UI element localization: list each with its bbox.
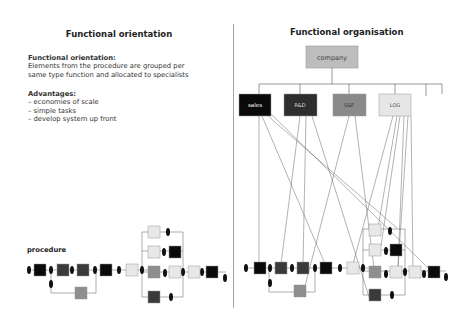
department-snf[interactable]: S&F — [333, 94, 366, 116]
svg-text:R&D: R&D — [294, 102, 305, 108]
svg-text:LOG: LOG — [390, 102, 401, 108]
org-chart: company sales R&D S&F LOG — [239, 46, 448, 301]
left-procedure-functions — [34, 226, 218, 303]
svg-text:S&F: S&F — [344, 102, 354, 108]
right-procedure-functions — [254, 224, 440, 301]
department-sales[interactable]: sales — [239, 94, 271, 116]
svg-text:sales: sales — [248, 102, 262, 108]
org-connectors — [259, 68, 442, 96]
company-node[interactable]: company — [306, 46, 358, 68]
department-log[interactable]: LOG — [379, 94, 411, 116]
right-procedure-events — [244, 227, 448, 299]
department-rnd[interactable]: R&D — [284, 94, 317, 116]
diagram-canvas: company sales R&D S&F LOG — [0, 0, 472, 318]
company-label: company — [317, 54, 347, 62]
